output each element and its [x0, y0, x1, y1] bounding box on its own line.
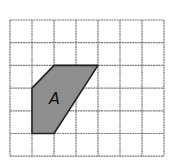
shape-label: A: [48, 89, 60, 108]
shape-a: [32, 65, 98, 133]
grid-diagram: A: [0, 0, 173, 162]
